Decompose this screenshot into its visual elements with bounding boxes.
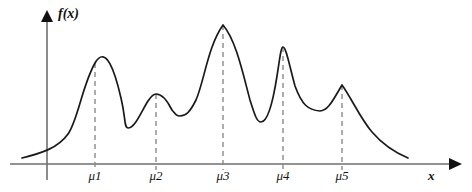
x-axis-label: x [428,168,435,184]
density-curve [22,25,408,158]
guide-lines-group [95,25,342,170]
tick-label-mu4: μ4 [276,168,289,184]
tick-label-mu5: μ5 [335,168,348,184]
density-curve-figure: f(x) x μ1 μ2 μ3 μ4 μ5 [0,0,472,192]
plot-svg [0,0,472,192]
tick-label-mu3: μ3 [216,168,229,184]
y-axis-label: f(x) [58,6,79,22]
tick-label-mu1: μ1 [88,168,101,184]
tick-label-mu2: μ2 [149,168,162,184]
